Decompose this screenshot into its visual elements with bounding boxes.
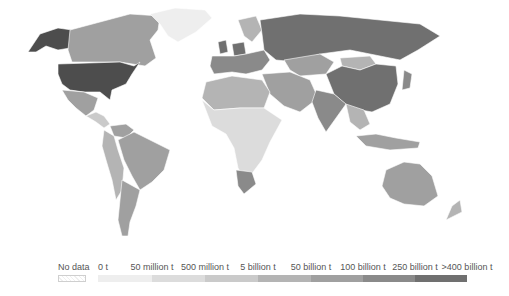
region-sub-saharan-africa[interactable] <box>202 100 282 182</box>
legend-swatch-100b[interactable] <box>363 275 415 282</box>
legend-label-no-data: No data <box>58 262 90 272</box>
region-united-kingdom[interactable] <box>218 40 228 54</box>
region-new-zealand[interactable] <box>446 200 462 220</box>
region-south-africa[interactable] <box>236 170 256 194</box>
legend-swatch-50b[interactable] <box>311 275 363 282</box>
region-russia[interactable] <box>260 14 440 62</box>
legend-swatch-50m[interactable] <box>152 275 205 282</box>
legend-label-50m: 50 million t <box>130 262 173 272</box>
region-australia[interactable] <box>382 162 438 206</box>
region-greenland[interactable] <box>150 8 212 42</box>
region-scandinavia[interactable] <box>238 16 262 42</box>
world-choropleth-map <box>0 0 509 250</box>
region-germany[interactable] <box>232 42 246 56</box>
region-central-america[interactable] <box>86 112 110 128</box>
region-brazil[interactable] <box>118 132 170 190</box>
region-north-africa[interactable] <box>202 76 270 110</box>
legend-label-50b: 50 billion t <box>291 262 332 272</box>
region-argentina[interactable] <box>118 180 140 236</box>
region-mexico[interactable] <box>62 90 98 116</box>
region-canada[interactable] <box>68 14 160 66</box>
legend-swatch-no-data[interactable] <box>58 275 86 282</box>
region-alaska[interactable] <box>28 28 72 52</box>
legend-swatch-0[interactable] <box>98 275 152 282</box>
region-japan[interactable] <box>402 70 412 90</box>
legend-label-400b: >400 billion t <box>442 262 493 272</box>
legend-label-500m: 500 million t <box>181 262 229 272</box>
legend-label-250b: 250 billion t <box>392 262 438 272</box>
legend-label-0: 0 t <box>98 262 108 272</box>
legend-swatch-5b[interactable] <box>258 275 311 282</box>
legend-swatch-500m[interactable] <box>205 275 258 282</box>
legend-swatch-250b[interactable] <box>415 275 467 282</box>
region-indonesia[interactable] <box>356 134 420 150</box>
region-middle-east[interactable] <box>262 72 318 112</box>
legend-label-100b: 100 billion t <box>340 262 386 272</box>
legend-label-5b: 5 billion t <box>240 262 276 272</box>
